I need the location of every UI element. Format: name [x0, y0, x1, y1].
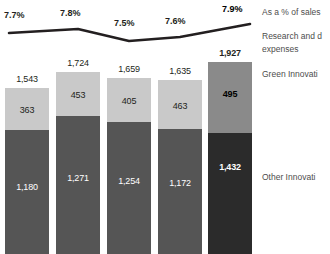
line-point-label: 7.6% [165, 17, 186, 26]
line-point-label: 7.8% [60, 9, 81, 18]
line-point-label: 7.9% [222, 5, 243, 14]
legend-other-innovation: Other Innovati [262, 172, 315, 183]
legend-research-and-development-line2: expenses [262, 44, 298, 55]
percent-of-sales-line-layer: 7.7% 7.8% 7.5% 7.6% 7.9% [0, 0, 258, 254]
stacked-bar-chart: 1,543 363 1,180 1,724 453 1,271 1,659 40… [0, 0, 330, 254]
line-point-label: 7.7% [4, 11, 25, 20]
legend-as-percent-of-sales: As a % of sales [262, 7, 321, 18]
percent-of-sales-line [0, 0, 258, 254]
line-point-label: 7.5% [114, 19, 135, 28]
legend-research-and-development-line1: Research and d [262, 31, 322, 42]
legend: As a % of sales Research and d expenses … [262, 0, 330, 254]
legend-green-innovation: Green Innovati [262, 69, 318, 80]
